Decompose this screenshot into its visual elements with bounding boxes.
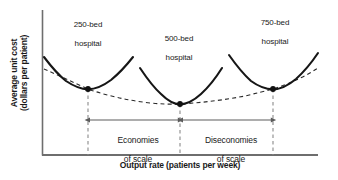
economies-of-scale-chart: 250-bed hospital 500-bed hospital 750-be… (0, 0, 338, 180)
minimum-point-500 (177, 101, 183, 107)
y-axis-title-line1: Average unit cost (9, 13, 19, 133)
curve-label-750-bed: 750-bed hospital (238, 8, 312, 56)
long-run-average-cost-envelope (44, 68, 318, 104)
y-axis-title-line2: (dollars per patient) (19, 13, 29, 133)
x-axis-title: Output rate (patients per week) (42, 160, 318, 170)
curve-250-bed (44, 57, 133, 89)
diseconomies-label-line1: Diseconomies (188, 136, 274, 146)
curve-label-500-bed: 500-bed hospital (142, 24, 216, 72)
curve-label-250-bed: 250-bed hospital (52, 10, 124, 58)
minimum-point-250 (85, 86, 91, 92)
curve-500-bed (140, 68, 222, 104)
curve-label-500-line1: 500-bed (142, 34, 216, 44)
curve-label-750-line2: hospital (238, 37, 312, 47)
curve-label-250-line1: 250-bed (52, 20, 124, 30)
curve-label-750-line1: 750-bed (238, 18, 312, 28)
y-axis-title: Average unit cost (dollars per patient) (9, 13, 29, 133)
curve-750-bed (229, 53, 318, 89)
curve-label-500-line2: hospital (142, 53, 216, 63)
curve-label-250-line2: hospital (52, 39, 124, 49)
minimum-point-750 (270, 86, 276, 92)
economies-label-line1: Economies (96, 136, 180, 146)
